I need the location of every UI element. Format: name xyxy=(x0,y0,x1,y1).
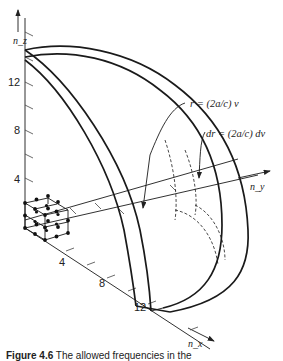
lattice-point xyxy=(66,231,70,235)
lattice-point xyxy=(46,207,50,211)
x-tick-label-8: 8 xyxy=(99,277,105,289)
lattice-point xyxy=(35,210,38,213)
thickness-leader xyxy=(199,132,205,178)
lattice-point xyxy=(45,229,48,232)
nx-label: n_x xyxy=(188,338,203,349)
lattice-point xyxy=(55,235,59,239)
y-ticks xyxy=(70,185,176,214)
lattice-point xyxy=(56,225,60,229)
lattice-point xyxy=(55,222,58,225)
ny-label: n_y xyxy=(250,181,265,192)
radius-leader xyxy=(143,103,185,208)
lattice-point xyxy=(33,207,37,211)
spherical-shell xyxy=(25,46,248,312)
lattice-point xyxy=(33,220,36,223)
lattice-point xyxy=(43,213,47,217)
lattice-point xyxy=(35,223,39,227)
x-tick-label-4: 4 xyxy=(59,256,65,268)
lattice-point xyxy=(43,238,47,242)
lattice-point xyxy=(46,194,50,198)
figure-caption: Figure 4.6 The allowed frequencies in th… xyxy=(6,350,192,361)
lattice-point xyxy=(23,226,27,230)
lattice-point xyxy=(45,204,48,207)
nx-axis xyxy=(25,228,210,349)
caption-text: The allowed frequencies in the xyxy=(56,350,192,361)
x-ticks xyxy=(66,248,198,330)
lattice-point xyxy=(56,213,59,216)
lattice-point xyxy=(66,219,70,223)
lattice-point xyxy=(56,200,60,204)
lattice-point xyxy=(46,219,50,223)
z-tick-label-12: 12 xyxy=(8,76,20,88)
z-tick-label-8: 8 xyxy=(14,124,20,136)
ny-arrow-icon xyxy=(238,171,270,178)
lattice-point xyxy=(33,232,37,236)
lattice-point xyxy=(23,214,27,218)
caption-label: Figure 4.6 xyxy=(6,350,53,361)
lattice-point xyxy=(35,198,39,202)
nz-label: n_z xyxy=(13,35,27,46)
z-tick-label-4: 4 xyxy=(14,173,20,185)
thickness-annotation: dr = (2a/c) dν xyxy=(206,128,266,140)
lattice-point xyxy=(55,210,59,214)
lattice-point xyxy=(43,226,47,230)
lattice-point xyxy=(23,201,27,205)
ny-axis xyxy=(25,175,258,228)
radius-annotation: r = (2a/c) ν xyxy=(190,98,239,110)
